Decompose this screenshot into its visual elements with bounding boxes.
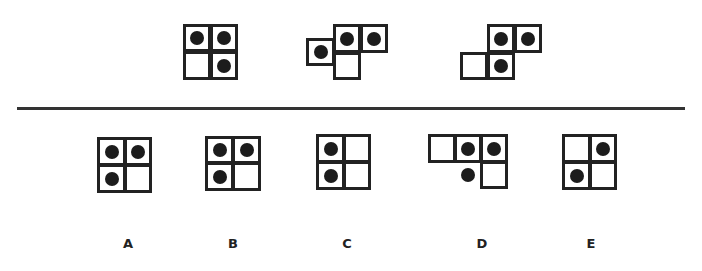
dot-icon: [521, 32, 535, 46]
dot-icon: [570, 169, 584, 183]
dot-icon: [461, 168, 475, 182]
dot-icon: [105, 145, 119, 159]
dot-icon: [131, 145, 145, 159]
option-label-b[interactable]: B: [223, 236, 243, 251]
dot-icon: [324, 142, 338, 156]
grid-cell: [562, 134, 591, 163]
grid-cell: [428, 134, 456, 163]
dot-icon: [340, 32, 354, 46]
option-label-e[interactable]: E: [581, 236, 601, 251]
dot-icon: [487, 142, 501, 156]
grid-cell: [343, 161, 371, 190]
dot-icon: [324, 169, 338, 183]
dot-icon: [105, 172, 119, 186]
grid-cell: [124, 164, 152, 193]
dot-icon: [367, 32, 381, 46]
grid-cell: [460, 52, 488, 80]
dot-icon: [596, 142, 610, 156]
grid-cell: [343, 134, 371, 163]
dot-icon: [190, 31, 204, 45]
option-label-a[interactable]: A: [118, 236, 138, 251]
dot-icon: [461, 142, 475, 156]
dot-icon: [494, 59, 508, 73]
divider-line: [17, 107, 685, 110]
dot-icon: [213, 170, 227, 184]
dot-icon: [217, 59, 231, 73]
dot-icon: [494, 32, 508, 46]
grid-cell: [183, 51, 211, 80]
option-label-c[interactable]: C: [337, 236, 357, 251]
grid-cell: [333, 52, 361, 80]
grid-cell: [589, 161, 617, 190]
option-label-d[interactable]: D: [472, 236, 492, 251]
dot-icon: [240, 143, 254, 157]
dot-icon: [314, 45, 328, 59]
dot-icon: [217, 31, 231, 45]
grid-cell: [232, 162, 261, 191]
grid-cell: [480, 161, 508, 189]
dot-icon: [213, 143, 227, 157]
